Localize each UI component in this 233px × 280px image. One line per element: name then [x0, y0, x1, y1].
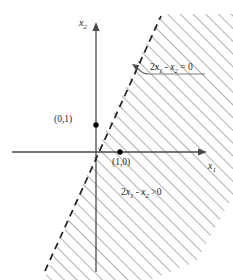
y-axis-arrowhead	[92, 22, 99, 31]
y-axis-label: x2	[79, 18, 87, 31]
hatched-region	[44, 14, 233, 280]
point-label-0-1: (0,1)	[54, 115, 72, 125]
region-ineq-suffix: >0	[149, 187, 161, 197]
point-label-1-0: (1,0)	[112, 158, 130, 168]
boundary-line-equation-label: 2x1 - x2 = 0	[150, 63, 193, 75]
diagram-canvas	[0, 0, 233, 280]
x-axis-label-subscript: 1	[212, 166, 216, 174]
point-marker-1-0	[117, 149, 122, 154]
figure-container: x1 x2 2x1 - x2 = 0 2x1 - x2 >0 (0,1) (1,…	[0, 0, 233, 280]
region-inequality-label: 2x1 - x2 >0	[121, 188, 161, 200]
x-axis-label: x1	[208, 161, 216, 174]
point-marker-0-1	[93, 122, 98, 127]
y-axis-label-subscript: 2	[83, 23, 87, 31]
line-eq-suffix: = 0	[178, 62, 193, 72]
